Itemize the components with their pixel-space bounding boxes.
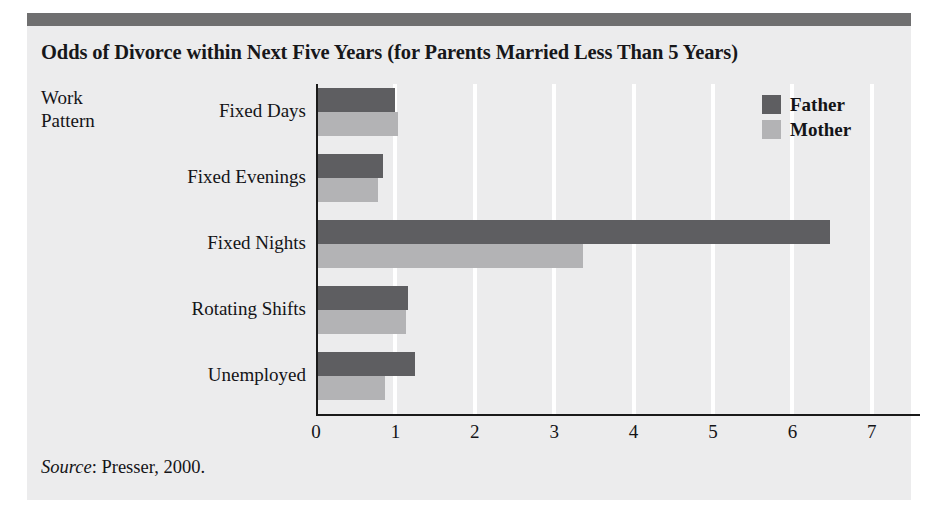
- x-tick-label: 4: [619, 421, 649, 443]
- bar-father: [316, 286, 408, 310]
- chart-title: Odds of Divorce within Next Five Years (…: [41, 41, 911, 64]
- y-category-label: Fixed Evenings: [46, 166, 306, 188]
- bar-father: [316, 88, 395, 112]
- legend: Father Mother: [762, 92, 851, 142]
- bar-father: [316, 352, 415, 376]
- bar-mother: [316, 112, 398, 136]
- legend-swatch-mother-icon: [762, 120, 781, 139]
- bar-father: [316, 220, 830, 244]
- legend-item-mother: Mother: [762, 117, 851, 142]
- legend-item-father: Father: [762, 92, 851, 117]
- bar-group: [316, 282, 872, 348]
- y-category-label: Unemployed: [46, 364, 306, 386]
- bar-father: [316, 154, 383, 178]
- x-tick-label: 2: [460, 421, 490, 443]
- bar-mother: [316, 178, 378, 202]
- x-axis-line: [316, 414, 920, 416]
- y-category-label: Rotating Shifts: [46, 298, 306, 320]
- y-category-label: Fixed Nights: [46, 232, 306, 254]
- bar-group: [316, 348, 872, 414]
- bar-mother: [316, 376, 385, 400]
- y-category-label: Fixed Days: [46, 100, 306, 122]
- source-note: Source: Presser, 2000.: [41, 457, 205, 478]
- x-tick-label: 5: [698, 421, 728, 443]
- legend-label-mother: Mother: [790, 119, 851, 141]
- x-tick-label: 7: [857, 421, 887, 443]
- figure-container: Odds of Divorce within Next Five Years (…: [0, 0, 939, 518]
- legend-swatch-father-icon: [762, 95, 781, 114]
- x-tick-label: 6: [777, 421, 807, 443]
- x-tick-label: 0: [301, 421, 331, 443]
- header-rule: [27, 13, 911, 26]
- y-axis-line: [316, 84, 318, 415]
- source-text: : Presser, 2000.: [92, 457, 205, 477]
- x-tick-label: 1: [380, 421, 410, 443]
- legend-label-father: Father: [790, 94, 845, 116]
- bar-mother: [316, 244, 583, 268]
- source-label: Source: [41, 457, 92, 477]
- x-tick-label: 3: [539, 421, 569, 443]
- bar-group: [316, 150, 872, 216]
- bar-mother: [316, 310, 406, 334]
- bar-group: [316, 216, 872, 282]
